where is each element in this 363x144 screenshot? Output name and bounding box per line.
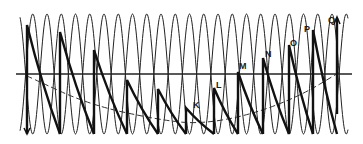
thick-stroke-p xyxy=(313,30,337,134)
wave-diagram: KLMNOPQ xyxy=(0,0,363,144)
label-o: O xyxy=(290,38,297,48)
label-q: Q xyxy=(328,15,335,25)
label-p: P xyxy=(304,24,310,34)
label-l: L xyxy=(216,80,222,90)
thick-stroke-n xyxy=(263,58,289,134)
label-m: M xyxy=(239,61,247,71)
label-k: K xyxy=(193,100,200,110)
label-n: N xyxy=(265,49,272,59)
thick-stroke xyxy=(60,32,94,134)
thick-stroke xyxy=(158,89,186,134)
thick-stroke-l xyxy=(214,88,238,134)
